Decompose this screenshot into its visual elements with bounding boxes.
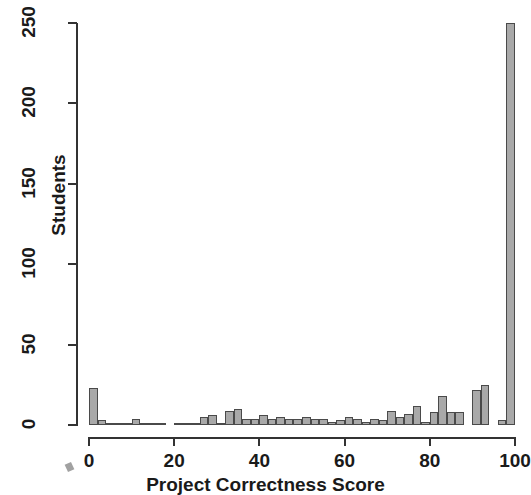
histogram-bar bbox=[157, 423, 166, 425]
x-axis-spine bbox=[89, 437, 516, 439]
histogram-bar bbox=[362, 422, 371, 425]
histogram-bar bbox=[191, 423, 200, 425]
y-tick-label: 50 bbox=[18, 309, 40, 379]
histogram-bar bbox=[472, 390, 481, 425]
histogram-bar bbox=[421, 422, 430, 425]
x-tick-label: 20 bbox=[144, 450, 204, 472]
histogram-bar bbox=[98, 420, 107, 425]
histogram-bar bbox=[276, 417, 285, 425]
histogram-bar bbox=[447, 412, 456, 425]
histogram-bar bbox=[353, 419, 362, 425]
histogram-bar bbox=[438, 396, 447, 425]
histogram-bar bbox=[345, 417, 354, 425]
histogram-bar bbox=[132, 419, 141, 425]
y-tick-mark bbox=[68, 102, 77, 104]
histogram-bar bbox=[336, 420, 345, 425]
histogram-bar bbox=[481, 385, 490, 425]
histogram-figure: Students 050100150200250 020406080100 Pr… bbox=[0, 0, 531, 495]
histogram-bar bbox=[285, 419, 294, 425]
histogram-bar bbox=[455, 412, 464, 425]
histogram-bar bbox=[268, 419, 277, 425]
x-tick-label: 100 bbox=[485, 450, 531, 472]
histogram-bar bbox=[498, 420, 507, 425]
y-tick-mark bbox=[68, 22, 77, 24]
histogram-bar bbox=[200, 417, 209, 425]
histogram-bar bbox=[319, 419, 328, 425]
histogram-bar bbox=[293, 419, 302, 425]
y-tick-mark bbox=[68, 424, 77, 426]
x-tick-mark bbox=[514, 437, 516, 446]
x-axis-title: Project Correctness Score bbox=[0, 474, 531, 495]
y-tick-mark bbox=[68, 263, 77, 265]
x-tick-mark bbox=[344, 437, 346, 446]
histogram-bar bbox=[259, 415, 268, 425]
y-tick-label: 100 bbox=[18, 228, 40, 298]
histogram-bar bbox=[370, 419, 379, 425]
histogram-bar bbox=[106, 423, 115, 425]
x-tick-label: 80 bbox=[400, 450, 460, 472]
y-tick-label: 250 bbox=[18, 0, 40, 57]
histogram-bar bbox=[387, 411, 396, 425]
x-tick-label: 60 bbox=[315, 450, 375, 472]
histogram-bar bbox=[183, 423, 192, 425]
histogram-bar bbox=[174, 423, 183, 425]
histogram-bar bbox=[149, 423, 158, 425]
histogram-bar bbox=[328, 422, 337, 425]
x-tick-mark bbox=[258, 437, 260, 446]
histogram-bar bbox=[123, 423, 132, 425]
histogram-bar bbox=[89, 388, 98, 425]
y-axis-spine bbox=[76, 23, 78, 426]
histogram-bar bbox=[379, 420, 388, 425]
histogram-bar bbox=[396, 417, 405, 425]
y-tick-mark bbox=[68, 344, 77, 346]
x-tick-mark bbox=[429, 437, 431, 446]
y-tick-label: 150 bbox=[18, 148, 40, 218]
histogram-bar bbox=[208, 415, 217, 425]
y-tick-mark bbox=[68, 183, 77, 185]
histogram-bar bbox=[302, 417, 311, 425]
histogram-bar bbox=[404, 414, 413, 425]
histogram-bar bbox=[506, 23, 515, 425]
y-axis-title: Students bbox=[48, 135, 70, 255]
histogram-bar bbox=[225, 411, 234, 425]
histogram-bar bbox=[430, 412, 439, 425]
y-tick-label: 200 bbox=[18, 67, 40, 137]
histogram-bar bbox=[234, 409, 243, 425]
histogram-bar bbox=[115, 423, 124, 425]
histogram-bar bbox=[251, 419, 260, 425]
histogram-bar bbox=[311, 419, 320, 425]
histogram-bar bbox=[140, 423, 149, 425]
histogram-bar bbox=[242, 419, 251, 425]
y-tick-label: 0 bbox=[18, 389, 40, 459]
x-tick-mark bbox=[88, 437, 90, 446]
x-tick-mark bbox=[173, 437, 175, 446]
histogram-bar bbox=[217, 423, 226, 425]
plot-area bbox=[0, 0, 531, 495]
histogram-bar bbox=[413, 406, 422, 425]
x-tick-label: 40 bbox=[229, 450, 289, 472]
